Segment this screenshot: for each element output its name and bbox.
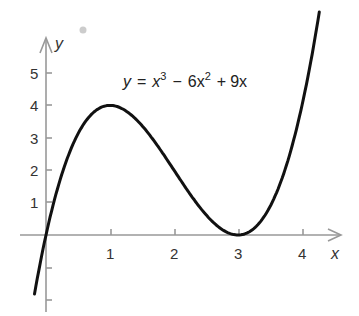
y-tick-label: 2 xyxy=(30,162,38,179)
cubic-function-graph: 5 4 3 2 1 1 2 3 4 x y y=x3−6x2+9x xyxy=(0,0,359,316)
y-tick-label: 1 xyxy=(30,194,38,211)
scan-artifact-dot xyxy=(80,27,87,34)
y-tick-label: 3 xyxy=(30,130,38,147)
y-axis-label: y xyxy=(54,35,64,52)
y-tick-label: 5 xyxy=(30,65,38,82)
y-tick-labels: 5 4 3 2 1 xyxy=(30,65,38,211)
x-tick-label: 3 xyxy=(234,245,242,262)
equation-label: y=x3−6x2+9x xyxy=(122,70,247,90)
y-tick-label: 4 xyxy=(30,97,38,114)
x-tick-label: 4 xyxy=(298,245,306,262)
x-axis-label: x xyxy=(330,245,340,262)
x-tick-labels: 1 2 3 4 xyxy=(106,245,306,262)
y-ticks xyxy=(46,73,52,300)
x-tick-label: 2 xyxy=(170,245,178,262)
x-tick-label: 1 xyxy=(106,245,114,262)
x-ticks xyxy=(111,229,303,235)
